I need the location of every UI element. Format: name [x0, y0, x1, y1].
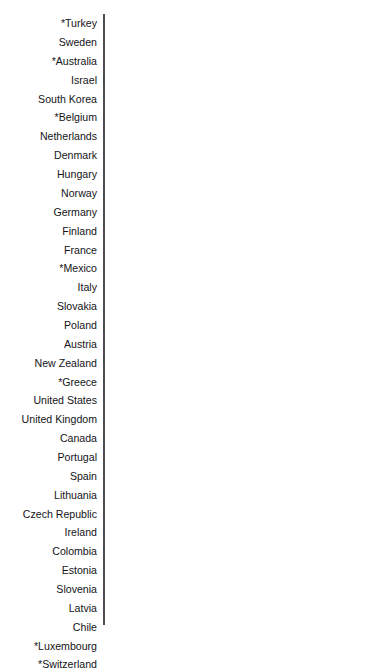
bar-value-label: 48	[237, 639, 248, 652]
bar-category-label: United Kingdom	[0, 413, 97, 426]
bar-track: 63	[105, 356, 298, 369]
bar-row: *Switzerland36	[0, 656, 389, 672]
bar-category-label: Latvia	[0, 602, 97, 615]
bar-row: *Australia81	[0, 52, 389, 71]
bar-track: 69	[105, 206, 316, 219]
bar-track: 64	[105, 338, 301, 351]
bar-row: Latvia54	[0, 599, 389, 618]
bar-category-label: Finland	[0, 225, 97, 238]
bar-track: 54	[105, 602, 270, 615]
bar-category-label: Netherlands	[0, 130, 97, 143]
bar-track: 36	[105, 658, 215, 671]
bar-track: 78	[105, 92, 344, 105]
bar-value-label: 56	[261, 564, 272, 577]
bar-category-label: *Mexico	[0, 262, 97, 275]
bar-row: Colombia57	[0, 543, 389, 562]
bar-category-label: Canada	[0, 432, 97, 445]
bar-category-label: Estonia	[0, 564, 97, 577]
bar-category-label: Norway	[0, 187, 97, 200]
bar-track: 71	[105, 187, 322, 200]
bar-value-label: 36	[200, 658, 211, 671]
bar-category-label: Denmark	[0, 149, 97, 162]
bar-row: Estonia56	[0, 562, 389, 581]
bar-row: Hungary72	[0, 165, 389, 184]
bar-row: *Belgium78	[0, 109, 389, 128]
bar-category-label: *Greece	[0, 376, 97, 389]
bar-category-label: Slovenia	[0, 583, 97, 596]
bar-category-label: Spain	[0, 470, 97, 483]
bar-row: Spain60	[0, 467, 389, 486]
bar-row: Slovakia65	[0, 298, 389, 317]
bar-value-label: 78	[328, 111, 339, 124]
bar-category-label: Israel	[0, 74, 97, 87]
bar-value-label: 62	[280, 394, 291, 407]
bar-value-label: 63	[283, 375, 294, 388]
bar-value-label: 77	[325, 130, 336, 143]
bar-category-label: Ireland	[0, 526, 97, 539]
bar-value-label: 52	[249, 621, 260, 634]
bar-value-label: 65	[289, 281, 300, 294]
bar-category-label: Austria	[0, 338, 97, 351]
bar-track: 57	[105, 545, 280, 558]
bar-track: 65	[105, 319, 304, 332]
bar-value-label: 78	[328, 92, 339, 105]
bar-row: Lithuania59	[0, 486, 389, 505]
bar-row: Czech Republic58	[0, 505, 389, 524]
bar-value-label: 63	[283, 356, 294, 369]
bar-value-label: 66	[292, 262, 303, 275]
bar-row: *Mexico66	[0, 260, 389, 279]
bar-track: 52	[105, 621, 264, 634]
bar-row: *Luxembourg48	[0, 637, 389, 656]
bar-category-label: *Turkey	[0, 17, 97, 30]
bar-category-label: France	[0, 244, 97, 257]
bar-category-label: Italy	[0, 281, 97, 294]
bar-value-label: 72	[310, 168, 321, 181]
bar-category-label: Portugal	[0, 451, 97, 464]
bar-track: 62	[105, 394, 295, 407]
bar-track: 48	[105, 639, 252, 652]
bar-category-label: Sweden	[0, 36, 97, 49]
bar-track: 81	[105, 55, 353, 68]
bar-track: 60	[105, 470, 289, 483]
bar-row: Norway71	[0, 184, 389, 203]
bar-track: 55	[105, 583, 273, 596]
bar-track: 61	[105, 451, 292, 464]
bar-row: France68	[0, 241, 389, 260]
bar-track: 82	[105, 36, 356, 49]
bar-value-label: 58	[267, 507, 278, 520]
bar-value-label: 57	[264, 545, 275, 558]
bar-row: Germany69	[0, 203, 389, 222]
bar-value-label: 68	[298, 243, 309, 256]
bar-value-label: 65	[289, 319, 300, 332]
bar-track: 68	[105, 243, 313, 256]
bar-row: United States62	[0, 392, 389, 411]
bar-row: Sweden82	[0, 33, 389, 52]
bar-value-label: 57	[264, 526, 275, 539]
bar-row: South Korea78	[0, 90, 389, 109]
bar-row: United Kingdom62	[0, 411, 389, 430]
bar-row: Poland65	[0, 316, 389, 335]
bar-track: 65	[105, 281, 304, 294]
bar-value-label: 62	[280, 413, 291, 426]
bar-category-label: Colombia	[0, 545, 97, 558]
bar-value-label: 81	[338, 55, 349, 68]
bar-value-label: 64	[286, 338, 297, 351]
bar-track: 59	[105, 488, 286, 501]
bar-value-label: 69	[301, 206, 312, 219]
bar-value-label: 54	[255, 602, 266, 615]
bar-track: 56	[105, 564, 276, 577]
plot-area: *Turkey89%Sweden82*Australia81Israel78So…	[0, 14, 389, 627]
bar-value-label: 65	[289, 300, 300, 313]
bar-track: 77	[105, 130, 341, 143]
bar-value-label: 59	[270, 488, 281, 501]
bar-row: Portugal61	[0, 448, 389, 467]
bar-track: 62	[105, 432, 295, 445]
bar-row: Slovenia55	[0, 580, 389, 599]
bar-track: 69	[105, 224, 316, 237]
bar-row: Netherlands77	[0, 128, 389, 147]
bar-row: Denmark76	[0, 147, 389, 166]
bar-row: New Zealand63	[0, 354, 389, 373]
bar-value-label: 61	[276, 451, 287, 464]
bar-category-label: Hungary	[0, 168, 97, 181]
